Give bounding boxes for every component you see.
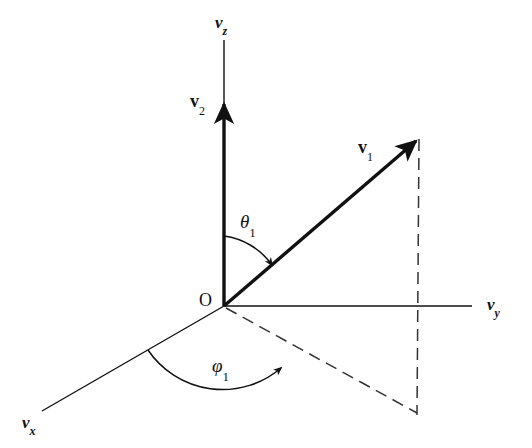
theta-arc — [224, 236, 272, 265]
vector-diagram-figure: vz vy vx v2 v1 θ1 φ1 O — [0, 0, 532, 448]
axis-label-vx: vx — [22, 414, 36, 434]
angle-label-theta1-subscript: 1 — [249, 225, 256, 240]
angle-label-phi1-subscript: 1 — [223, 369, 230, 384]
origin-label: O — [199, 291, 212, 309]
axis-group — [42, 40, 472, 411]
axis-label-vy-symbol: v — [487, 295, 495, 314]
vector-label-v1-symbol: v — [358, 137, 367, 157]
construction-line-group — [226, 139, 419, 415]
angle-label-theta1: θ1 — [240, 212, 256, 235]
axis-line-vx — [42, 306, 224, 411]
axis-label-vy: vy — [487, 296, 500, 316]
axis-label-vx-subscript: x — [30, 424, 36, 438]
angle-label-theta1-symbol: θ — [240, 211, 249, 232]
axis-label-vz-symbol: v — [215, 13, 223, 32]
vector-label-v2-symbol: v — [190, 91, 199, 111]
drop-line — [417, 139, 419, 415]
axis-label-vx-symbol: v — [22, 413, 30, 432]
vector-group — [224, 104, 416, 306]
projection-line — [226, 308, 417, 413]
axis-label-vz: vz — [215, 14, 227, 34]
vector-label-v2: v2 — [190, 92, 205, 114]
diagram-canvas — [0, 0, 532, 448]
angle-label-phi1-symbol: φ — [212, 355, 223, 376]
vector-label-v1: v1 — [358, 138, 373, 160]
angle-label-phi1: φ1 — [212, 356, 229, 379]
vector-label-v2-subscript: 2 — [199, 104, 205, 118]
axis-label-vz-subscript: z — [223, 24, 228, 38]
vector-label-v1-subscript: 1 — [367, 150, 373, 164]
axis-label-vy-subscript: y — [495, 306, 500, 320]
